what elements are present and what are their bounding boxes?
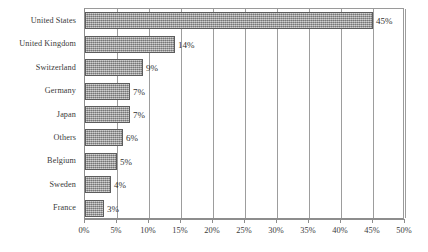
category-label: Germany bbox=[45, 86, 76, 95]
bar-row: 7% bbox=[85, 106, 405, 123]
bar-value-label: 9% bbox=[143, 63, 158, 73]
x-axis-tick bbox=[244, 219, 245, 223]
x-axis-tick bbox=[148, 219, 149, 223]
bar[interactable] bbox=[85, 176, 111, 193]
category-axis: United StatesUnited KingdomSwitzerlandGe… bbox=[0, 8, 80, 219]
bar-value-label: 3% bbox=[104, 204, 119, 214]
bar-row: 7% bbox=[85, 83, 405, 100]
bar[interactable] bbox=[85, 83, 130, 100]
bar-value-label: 7% bbox=[130, 110, 145, 120]
bar-value-label: 5% bbox=[117, 157, 132, 167]
bar[interactable] bbox=[85, 36, 175, 53]
x-axis-tick-label: 30% bbox=[268, 226, 283, 235]
x-axis-tick-label: 15% bbox=[172, 226, 187, 235]
bar-row: 14% bbox=[85, 36, 405, 53]
category-label: United States bbox=[31, 15, 76, 24]
x-axis-tick bbox=[340, 219, 341, 223]
bar[interactable] bbox=[85, 129, 123, 146]
category-label: Japan bbox=[57, 109, 76, 118]
bar[interactable] bbox=[85, 106, 130, 123]
category-label: Switzerland bbox=[36, 62, 76, 71]
gridline bbox=[405, 9, 406, 218]
x-axis-tick bbox=[116, 219, 117, 223]
x-axis-tick-label: 10% bbox=[140, 226, 155, 235]
category-label: Belgium bbox=[47, 156, 76, 165]
bar-row: 3% bbox=[85, 200, 405, 217]
bar[interactable] bbox=[85, 12, 373, 29]
category-label: France bbox=[53, 203, 76, 212]
category-label: Sweden bbox=[49, 179, 76, 188]
bar-row: 5% bbox=[85, 153, 405, 170]
bar-value-label: 4% bbox=[111, 180, 126, 190]
category-label: United Kingdom bbox=[19, 39, 76, 48]
bar-row: 9% bbox=[85, 59, 405, 76]
x-axis-tick-label: 20% bbox=[204, 226, 219, 235]
x-axis-tick bbox=[212, 219, 213, 223]
x-axis-tick bbox=[372, 219, 373, 223]
x-axis-tick bbox=[180, 219, 181, 223]
x-axis-tick-label: 35% bbox=[300, 226, 315, 235]
bar[interactable] bbox=[85, 59, 143, 76]
x-axis-tick-label: 25% bbox=[236, 226, 251, 235]
x-axis-tick-label: 50% bbox=[396, 226, 411, 235]
x-axis-tick bbox=[404, 219, 405, 223]
bar-row: 4% bbox=[85, 176, 405, 193]
x-axis-tick bbox=[84, 219, 85, 223]
x-axis-tick-label: 40% bbox=[332, 226, 347, 235]
x-axis-tick-label: 5% bbox=[110, 226, 121, 235]
x-axis-tick-label: 45% bbox=[364, 226, 379, 235]
bar-row: 6% bbox=[85, 129, 405, 146]
value-axis: 0%5%10%15%20%25%30%35%40%45%50% bbox=[84, 219, 405, 220]
plot-area: 45%14%9%7%7%6%5%4%3% bbox=[84, 8, 404, 219]
bar-value-label: 45% bbox=[373, 16, 393, 26]
bar-row: 45% bbox=[85, 12, 405, 29]
x-axis-tick bbox=[276, 219, 277, 223]
category-label: Others bbox=[54, 132, 76, 141]
bar[interactable] bbox=[85, 153, 117, 170]
bar-value-label: 14% bbox=[175, 40, 195, 50]
bar[interactable] bbox=[85, 200, 104, 217]
bar-value-label: 7% bbox=[130, 87, 145, 97]
bar-chart: United StatesUnited KingdomSwitzerlandGe… bbox=[0, 0, 428, 252]
x-axis-tick-label: 0% bbox=[78, 226, 89, 235]
x-axis-tick bbox=[308, 219, 309, 223]
bar-value-label: 6% bbox=[123, 133, 138, 143]
